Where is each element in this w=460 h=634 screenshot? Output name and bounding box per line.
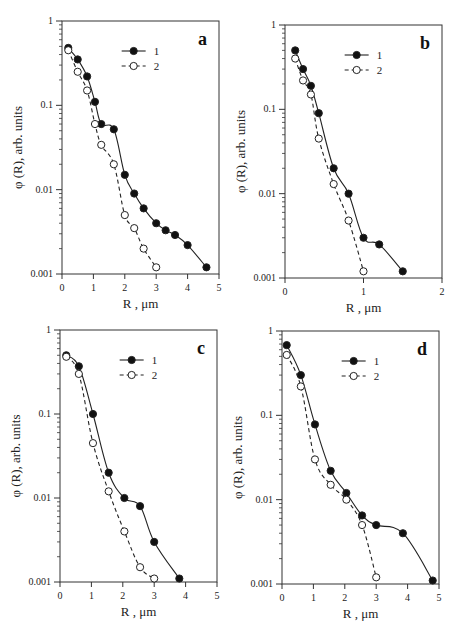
filled-marker	[184, 242, 191, 249]
legend-marker	[128, 371, 135, 378]
legend-item-2: 2	[122, 60, 160, 72]
y-tick-label: 0.1	[261, 409, 274, 420]
filled-marker	[307, 82, 314, 89]
filled-marker	[136, 503, 143, 510]
filled-marker	[131, 190, 138, 197]
y-tick-label: 1	[268, 325, 273, 336]
series-2	[283, 351, 380, 581]
y-tick-label: 0.01	[36, 184, 54, 195]
filled-marker	[162, 227, 169, 234]
panel-letter: a	[198, 29, 207, 49]
filled-marker	[203, 264, 210, 271]
chart-panel-c: 0.0010.010.11012345R , μmφ (R), arb. uni…	[8, 324, 220, 619]
y-axis-title: φ (R), arb. units	[10, 106, 25, 189]
filled-marker	[330, 165, 337, 172]
series-1	[292, 47, 407, 275]
filled-marker	[399, 530, 406, 537]
x-axis-title: R , μm	[123, 296, 159, 311]
series-line	[295, 59, 363, 272]
series-1	[65, 44, 210, 271]
series-1	[283, 342, 436, 585]
series-2	[65, 47, 160, 271]
panel-letter: b	[420, 33, 430, 53]
open-marker	[327, 481, 334, 488]
filled-marker	[171, 231, 178, 238]
filled-marker	[283, 342, 290, 349]
open-marker	[330, 180, 337, 187]
series-line	[66, 357, 154, 579]
filled-marker	[121, 171, 128, 178]
legend-marker	[130, 62, 137, 69]
filled-marker	[153, 220, 160, 227]
plot-frame	[60, 330, 217, 582]
x-tick-label: 2	[342, 592, 347, 603]
open-marker	[345, 217, 352, 224]
y-tick-label: 1	[48, 15, 53, 26]
x-tick-label: 3	[152, 590, 157, 601]
x-tick-label: 2	[122, 282, 127, 293]
x-tick-label: 1	[91, 282, 96, 293]
x-tick-label: 3	[154, 282, 159, 293]
y-tick-label: 0.01	[34, 492, 52, 503]
open-marker	[91, 120, 98, 127]
figure-canvas: 0.0010.010.11012345R , μmφ (R), arb. uni…	[0, 0, 460, 634]
y-tick-label: 0.001	[31, 268, 54, 279]
panel-letter: c	[197, 338, 205, 358]
x-tick-label: 4	[405, 592, 410, 603]
y-axis-title: φ (R), arb. units	[8, 415, 23, 498]
x-axis-title: R , μm	[121, 604, 157, 619]
y-tick-label: 0.001	[29, 576, 52, 587]
x-tick-label: 5	[215, 590, 220, 601]
filled-marker	[176, 575, 183, 582]
open-marker	[131, 225, 138, 232]
x-tick-label: 5	[217, 282, 222, 293]
open-marker	[360, 268, 367, 275]
legend-item-2: 2	[120, 369, 158, 381]
open-marker	[63, 353, 70, 360]
y-tick-label: 0.001	[251, 578, 274, 589]
open-marker	[121, 528, 128, 535]
y-axis-title: φ (R), arb. units	[233, 110, 248, 193]
open-marker	[153, 264, 160, 271]
panel-letter: d	[417, 339, 427, 359]
filled-marker	[74, 56, 81, 63]
open-marker	[65, 47, 72, 54]
open-marker	[110, 161, 117, 168]
open-marker	[373, 574, 380, 581]
legend-item-2: 2	[342, 370, 380, 382]
x-tick-label: 5	[437, 592, 442, 603]
series-2	[63, 353, 158, 582]
open-marker	[105, 488, 112, 495]
y-tick-label: 0.1	[39, 408, 52, 419]
x-tick-label: 0	[58, 590, 63, 601]
open-marker	[98, 141, 105, 148]
filled-marker	[89, 410, 96, 417]
filled-marker	[121, 494, 128, 501]
filled-marker	[360, 234, 367, 241]
y-tick-label: 1	[46, 324, 51, 335]
open-marker	[140, 245, 147, 252]
x-tick-label: 0	[283, 286, 288, 297]
legend-marker	[350, 357, 357, 364]
filled-marker	[345, 190, 352, 197]
filled-marker	[299, 65, 306, 72]
y-tick-label: 0.1	[41, 99, 54, 110]
open-marker	[292, 55, 299, 62]
legend-marker	[350, 372, 357, 379]
filled-marker	[315, 110, 322, 117]
open-marker	[151, 575, 158, 582]
legend-label: 2	[152, 369, 158, 381]
legend-marker	[353, 51, 360, 58]
open-marker	[283, 351, 290, 358]
open-marker	[136, 564, 143, 571]
filled-marker	[429, 577, 436, 584]
legend-item-1: 1	[122, 45, 160, 57]
open-marker	[121, 211, 128, 218]
legend-label: 2	[374, 370, 380, 382]
filled-marker	[84, 73, 91, 80]
open-marker	[299, 77, 306, 84]
open-marker	[315, 135, 322, 142]
x-tick-label: 2	[120, 590, 125, 601]
legend-item-1: 1	[342, 355, 380, 367]
y-tick-label: 0.001	[254, 272, 277, 283]
